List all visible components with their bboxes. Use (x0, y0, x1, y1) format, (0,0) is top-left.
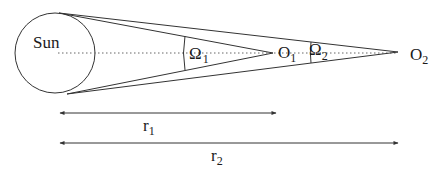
distance2-label: r2 (211, 146, 223, 168)
cone2-lower-line (67, 52, 398, 94)
sun-label: Sun (33, 33, 60, 52)
observer1-label: O1 (278, 43, 296, 65)
observer2-label: O2 (410, 45, 428, 67)
cone1-lower-line (67, 53, 273, 94)
angle1-arc (184, 36, 185, 70)
distance1-label: r1 (143, 116, 155, 138)
cone2-upper-line (59, 13, 398, 52)
cone1-upper-line (59, 13, 273, 53)
sun-observer-diagram: Sun Ω1 O1 Ω2 O2 r1 r2 (0, 0, 439, 169)
angle1-label: Ω1 (189, 44, 209, 66)
